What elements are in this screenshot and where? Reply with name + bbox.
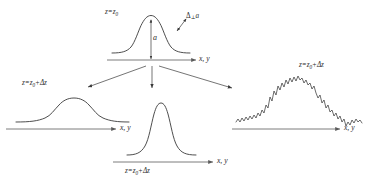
top-axis-label: x, y xyxy=(199,55,210,63)
bottom-left-graphics xyxy=(6,98,129,129)
propagation-diagram: z=z0 a Δ⊥a x, y z=z0+Δz x, y z=z0+Δz x, … xyxy=(0,0,374,188)
diagram-canvas xyxy=(0,0,374,188)
narrow-curve xyxy=(127,103,196,155)
top-panel-graphics xyxy=(107,16,196,61)
transverse-fluctuation-label: Δ⊥a xyxy=(186,13,199,20)
bottom-center-plane-label: z=z0+Δz xyxy=(125,168,150,177)
bottom-left-plane-label: z=z0+Δz xyxy=(22,80,47,89)
fluctuation-arrow-line xyxy=(177,19,186,31)
branch-arrow-right xyxy=(159,66,232,88)
bottom-right-axis-label: x, y xyxy=(344,124,355,132)
bottom-right-graphics xyxy=(232,76,362,129)
top-plane-label: z=z0 xyxy=(105,9,118,18)
branch-arrow-left xyxy=(88,66,146,87)
amplitude-label: a xyxy=(153,34,157,42)
bottom-right-plane-label: z=z0+Δz xyxy=(299,62,324,71)
noisy-curve xyxy=(236,76,362,126)
branch-arrows xyxy=(88,66,232,88)
bottom-center-graphics xyxy=(113,103,213,162)
bottom-center-axis-label: x, y xyxy=(217,157,228,165)
flattened-curve xyxy=(16,98,129,122)
bottom-left-axis-label: x, y xyxy=(120,124,131,132)
